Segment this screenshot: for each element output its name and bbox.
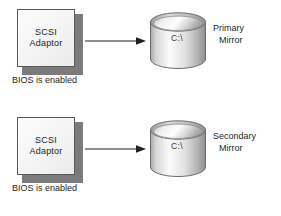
- mirror-label-line2: Mirror: [213, 34, 279, 46]
- arrow-right-icon: [85, 36, 147, 46]
- scsi-adaptor-box-primary: SCSI Adaptor: [17, 9, 79, 71]
- mirror-group-primary: SCSI Adaptor BIOS is enabled: [0, 0, 281, 108]
- disk-drive-letter-primary: C:\: [149, 33, 205, 43]
- adaptor-label-line2: Adaptor: [30, 146, 63, 157]
- arrow-right-icon: [85, 144, 147, 154]
- mirror-label-primary: Primary Mirror: [213, 22, 279, 46]
- mirror-label-secondary: Secondary Mirror: [213, 130, 279, 154]
- disk-drive-letter-secondary: C:\: [149, 141, 205, 151]
- diagram-canvas: SCSI Adaptor BIOS is enabled: [0, 0, 281, 216]
- adaptor-label-line2: Adaptor: [30, 38, 63, 49]
- mirror-label-line1: Primary: [213, 22, 279, 34]
- mirror-group-secondary: SCSI Adaptor BIOS is enabled: [0, 108, 281, 216]
- adaptor-label-line1: SCSI: [35, 135, 57, 146]
- mirror-label-line2: Mirror: [213, 142, 279, 154]
- mirror-label-line1: Secondary: [213, 130, 279, 142]
- arrow-primary: [85, 32, 147, 42]
- box-face: SCSI Adaptor: [17, 117, 75, 175]
- arrow-secondary: [85, 140, 147, 150]
- scsi-adaptor-box-secondary: SCSI Adaptor: [17, 117, 79, 179]
- adaptor-label-line1: SCSI: [35, 27, 57, 38]
- box-face: SCSI Adaptor: [17, 9, 75, 67]
- bios-caption-primary: BIOS is enabled: [12, 74, 112, 86]
- bios-caption-secondary: BIOS is enabled: [12, 182, 112, 194]
